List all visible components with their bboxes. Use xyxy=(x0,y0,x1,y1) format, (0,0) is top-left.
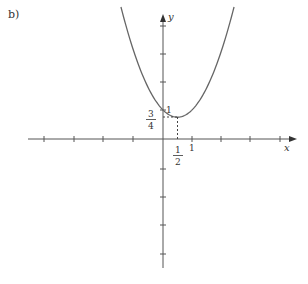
y-axis-label: y xyxy=(167,11,174,22)
parabola-figure: b) xyxy=(0,0,308,284)
x-axis-arrow-icon xyxy=(289,136,297,142)
graph-svg: 1 3 4 1 2 1 x y xyxy=(0,0,308,284)
y-intercept-label: 1 xyxy=(166,105,172,115)
part-label: b) xyxy=(8,8,19,21)
vertex-y-denominator: 4 xyxy=(148,121,154,131)
y-axis-arrow-icon xyxy=(160,14,166,22)
vertex-y-numerator: 3 xyxy=(148,109,154,119)
vertex-x-numerator: 1 xyxy=(175,145,181,155)
x-one-label: 1 xyxy=(189,143,195,153)
parabola-curve xyxy=(121,7,234,117)
vertex-x-denominator: 2 xyxy=(175,157,181,167)
x-axis-label: x xyxy=(284,142,290,153)
